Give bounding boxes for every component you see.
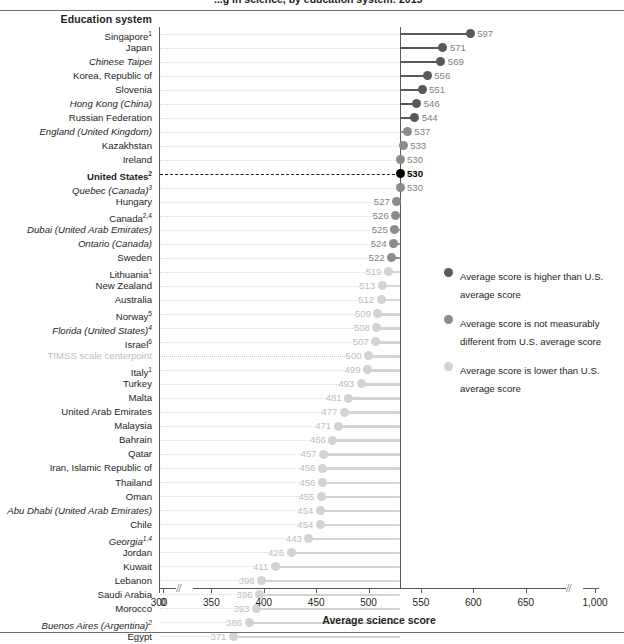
row-stem (321, 496, 400, 498)
row-label: Abu Dhabi (United Arab Emirates) (0, 504, 152, 518)
row-marker-dot (384, 267, 393, 276)
bottom-rule (0, 632, 624, 633)
row-leader-line (160, 160, 400, 162)
row-label: Lebanon (0, 574, 152, 588)
row-leader-line (160, 230, 373, 232)
row-value: 524 (366, 237, 387, 251)
chart-row: Jordan426 (0, 546, 624, 560)
chart-row: Kuwait411 (0, 560, 624, 574)
chart-row: Hong Kong (China)546 (0, 97, 624, 111)
row-label: Korea, Republic of (0, 69, 152, 83)
row-label: Ontario (Canada) (0, 237, 152, 251)
x-tick (421, 588, 422, 593)
row-value: 512 (353, 293, 374, 307)
row-leader-line (160, 524, 298, 526)
row-label: New Zealand (0, 279, 152, 293)
chart-row: Kazakhstan533 (0, 139, 624, 153)
chart-row: Hungary527 (0, 195, 624, 209)
row-leader-line (160, 412, 322, 414)
row-marker-dot (316, 506, 325, 515)
legend: Average score is higher than U.S. averag… (444, 266, 619, 407)
row-value: 597 (477, 27, 493, 41)
row-leader-line (160, 342, 354, 344)
row-marker-dot (391, 211, 400, 220)
row-marker-dot (373, 309, 382, 318)
row-value: 507 (348, 335, 369, 349)
row-label: England (United Kingdom) (0, 125, 152, 139)
row-leader-line (160, 286, 360, 288)
x-tick (473, 588, 474, 593)
row-label: Qatar (0, 447, 152, 461)
row-value: 537 (414, 125, 430, 139)
row-label: Israel6 (0, 335, 152, 349)
x-tick (526, 588, 527, 593)
row-label: Chile (0, 518, 152, 532)
row-value: 519 (360, 265, 381, 279)
row-stem (344, 411, 400, 413)
x-tick (211, 588, 212, 593)
x-tick (264, 588, 265, 593)
row-marker-dot (318, 464, 327, 473)
row-leader-line (160, 76, 400, 78)
row-stem (256, 608, 400, 610)
row-value: 396 (232, 588, 253, 602)
row-marker-dot (316, 520, 325, 529)
row-leader-line (160, 594, 238, 596)
row-value: 477 (316, 405, 337, 419)
row-value: 551 (429, 83, 445, 97)
row-marker-dot (334, 422, 343, 431)
chart-row: Ireland530 (0, 153, 624, 167)
row-label: Australia (0, 293, 152, 307)
row-value: 509 (350, 307, 371, 321)
row-leader-line (160, 580, 240, 582)
row-marker-dot (412, 99, 421, 108)
row-leader-line (160, 216, 374, 218)
row-stem (349, 397, 400, 399)
row-value: 513 (354, 279, 375, 293)
row-marker-dot (271, 562, 280, 571)
chart-row: Bahrain466 (0, 433, 624, 447)
row-stem (275, 566, 400, 568)
row-marker-dot (396, 155, 405, 164)
row-label: Bahrain (0, 433, 152, 447)
legend-item-lower: Average score is lower than U.S. average… (444, 360, 619, 396)
row-stem (320, 524, 400, 526)
chart-row: Russian Federation544 (0, 111, 624, 125)
row-stem (324, 453, 400, 455)
row-value: 527 (369, 195, 390, 209)
row-value: 569 (448, 55, 464, 69)
row-leader-line (160, 370, 346, 372)
row-leader-line (160, 468, 300, 470)
row-label: Thailand (0, 476, 152, 490)
row-leader-line (160, 496, 299, 498)
row-stem (322, 467, 400, 469)
row-label: Hong Kong (China) (0, 97, 152, 111)
row-leader-line (160, 552, 269, 554)
row-leader-line (160, 482, 300, 484)
x-tick-label: 650 (517, 597, 534, 608)
row-label: Canada2,4 (0, 209, 152, 223)
row-marker-dot (287, 548, 296, 557)
row-marker-dot (364, 351, 373, 360)
row-leader-line (160, 244, 372, 246)
row-label: Jordan (0, 546, 152, 560)
row-stem (368, 369, 400, 371)
row-value: 530 (407, 167, 423, 181)
legend-label-lower: Average score is lower than U.S. average… (460, 365, 600, 394)
row-value: 443 (281, 532, 302, 546)
chart-row: Abu Dhabi (United Arab Emirates)454 (0, 504, 624, 518)
row-value: 556 (434, 69, 450, 83)
row-label: Quebec (Canada)3 (0, 181, 152, 195)
row-leader-line (160, 314, 356, 316)
row-value: 493 (333, 377, 354, 391)
row-label: United States2 (0, 167, 152, 181)
row-value: 500 (341, 349, 362, 363)
row-leader-line (160, 566, 253, 568)
row-stem (233, 636, 400, 638)
chart-title-text: ...g in science, by education system: 20… (214, 0, 422, 5)
row-leader-line (160, 258, 370, 260)
row-leader-line (160, 538, 287, 540)
chart-row: Singapore1597 (0, 27, 624, 41)
row-value: 499 (340, 363, 361, 377)
x-tick (159, 588, 160, 593)
